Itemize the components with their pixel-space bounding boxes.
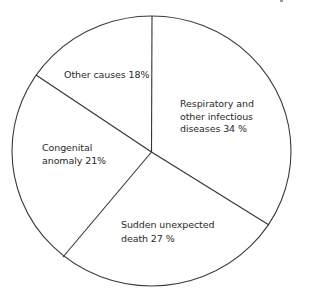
slice-label-line: Respiratory and [180,98,254,111]
slice-divider-top [152,16,153,152]
slice-label-line: Congenital [42,142,106,155]
slice-divider-lower-right [152,152,270,225]
slice-label-congenital: Congenital anomaly 21% [42,142,106,167]
slice-label-line: diseases 34 % [180,123,254,136]
slice-label-sudden-death: Sudden unexpected death 27 % [121,218,214,246]
slice-divider-upper-left [36,75,152,152]
slice-label-line: Other causes 18% [64,69,149,82]
slice-label-line: death 27 % [121,232,214,246]
slice-label-line: Sudden unexpected [121,218,214,232]
slice-label-respiratory: Respiratory and other infectious disease… [180,98,254,136]
slice-label-other: Other causes 18% [64,69,149,82]
slice-label-line: anomaly 21% [42,155,106,168]
slice-label-line: other infectious [180,111,254,124]
scan-artifact [280,0,283,2]
